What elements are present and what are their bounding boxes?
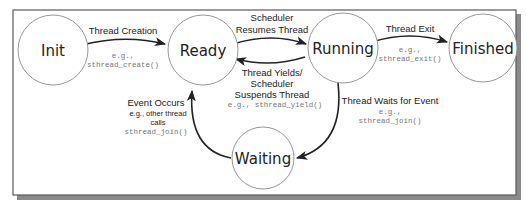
edge-label-scheduler-resumes-1: Scheduler [251,12,294,23]
state-waiting: Waiting [232,127,294,189]
state-running: Running [308,13,378,83]
edge-example-join-event: sthread_join() [124,128,187,136]
edge-example-yield: e.g., sthread_yield() [228,101,323,109]
state-finished-label: Finished [452,40,513,58]
state-init: Init [18,15,88,85]
edge-label-yields-3: Suspends Thread [235,89,310,100]
state-finished: Finished [449,14,517,82]
edge-label-yields-1: Thread Yields/ [242,67,303,78]
edge-label-thread-creation: Thread Creation [89,25,158,36]
edge-detail-event-2: calls [150,118,165,127]
state-ready: Ready [168,15,238,85]
edge-example-create: sthread_create() [87,61,159,69]
edge-label-waits-for-event: Thread Waits for Event [342,95,439,106]
edge-label-scheduler-resumes-2: Resumes Thread [236,24,309,35]
edge-example-exit: sthread_exit() [378,55,441,63]
state-init-label: Init [41,42,65,60]
edge-label-thread-exit: Thread Exit [386,23,435,34]
edge-example-join-wait: sthread_join() [358,117,421,125]
state-ready-label: Ready [180,42,227,60]
state-running-label: Running [312,40,373,58]
edge-example-prefix-join-wait: e.g., [379,108,402,116]
edge-label-event-occurs: Event Occurs [127,97,184,108]
edge-example-prefix-create: e.g., [112,52,135,60]
edge-example-prefix-exit: e.g., [399,46,422,54]
state-waiting-label: Waiting [235,150,291,168]
edge-detail-event-1: e.g., other thread [129,109,186,118]
edge-label-yields-2: Scheduler [251,78,294,89]
thread-state-diagram: Init Ready Running Finished Waiting Thre… [0,0,527,204]
